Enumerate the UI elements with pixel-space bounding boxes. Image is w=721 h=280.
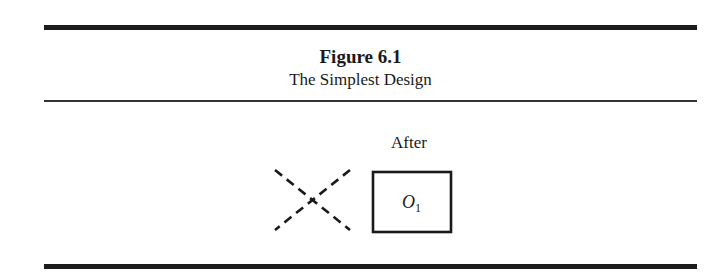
figure-title: The Simplest Design	[0, 70, 721, 90]
design-diagram: O1	[270, 164, 460, 238]
figure-number: Figure 6.1	[0, 46, 721, 68]
bottom-thick-rule	[44, 264, 697, 269]
dashed-cross-icon	[275, 170, 350, 230]
after-column-header: After	[391, 133, 427, 153]
observation-label: O1	[402, 192, 421, 215]
top-thick-rule	[44, 25, 697, 30]
header-divider-rule	[44, 100, 697, 102]
